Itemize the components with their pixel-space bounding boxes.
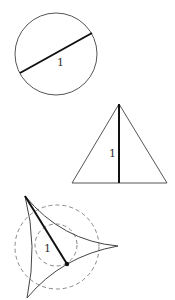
deltoid-point [65, 262, 69, 266]
deltoid-figure: 1 [15, 196, 118, 298]
triangle-figure: 1 [72, 104, 167, 183]
circle-diameter-line [20, 33, 92, 73]
diagram-canvas: 1 1 1 [0, 0, 175, 300]
circle-width-label: 1 [57, 56, 64, 69]
deltoid-outline [25, 196, 118, 298]
triangle-width-label: 1 [109, 147, 116, 160]
circle-figure: 1 [15, 13, 97, 95]
deltoid-width-label: 1 [44, 242, 51, 255]
